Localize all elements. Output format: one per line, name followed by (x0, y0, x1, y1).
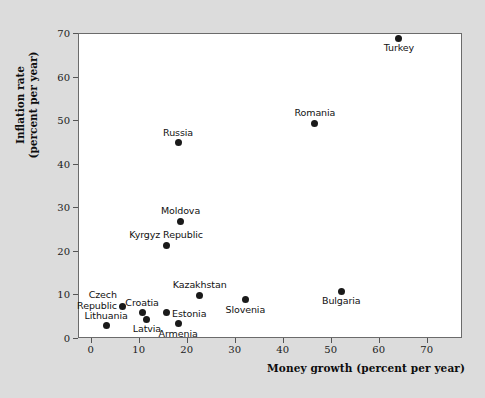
data-point-label: Moldova (161, 206, 200, 217)
x-axis-tick (91, 338, 92, 343)
x-axis-tick-label: 20 (180, 344, 193, 355)
y-axis-tick-label: 20 (57, 245, 70, 256)
x-axis-tick (379, 338, 380, 343)
y-axis-tick (73, 164, 78, 165)
x-axis-tick-label: 10 (132, 344, 145, 355)
x-axis-tick (187, 338, 188, 343)
x-axis-tick-label: 30 (228, 344, 241, 355)
data-point (177, 218, 184, 225)
data-point-label: Croatia (125, 297, 158, 308)
y-axis-tick-label: 30 (57, 202, 70, 213)
x-axis-tick (427, 338, 428, 343)
y-axis-tick-label: 10 (57, 289, 70, 300)
y-axis-tick (73, 120, 78, 121)
data-point (242, 296, 249, 303)
y-axis-tick (73, 33, 78, 34)
x-axis-tick (235, 338, 236, 343)
x-axis-tick (139, 338, 140, 343)
data-point (163, 309, 170, 316)
data-point-label: Turkey (384, 43, 414, 54)
x-axis-title: Money growth (percent per year) (267, 362, 465, 374)
data-point (175, 139, 182, 146)
x-axis-tick (331, 338, 332, 343)
data-point-label: Kyrgyz Republic (129, 230, 203, 241)
data-point-label: Lithuania (85, 310, 128, 321)
scatter-plot-figure: TurkeyRomaniaRussiaMoldovaKyrgyz Republi… (0, 0, 485, 398)
x-axis-tick-label: 40 (276, 344, 289, 355)
y-axis-title-line1: Inflation rate (14, 66, 26, 144)
data-point (311, 120, 318, 127)
x-axis-tick-label: 0 (88, 344, 94, 355)
data-point (103, 322, 110, 329)
data-point-label: Armenia (159, 329, 198, 340)
y-axis-tick (73, 294, 78, 295)
data-point-label: Estonia (172, 309, 206, 320)
data-point-label: Bulgaria (322, 296, 361, 307)
data-point-label: Latvia (133, 324, 161, 335)
y-axis-tick-label: 40 (57, 158, 70, 169)
data-point (175, 320, 182, 327)
y-axis-tick-label: 50 (57, 115, 70, 126)
data-point (163, 242, 170, 249)
data-point-label: Slovenia (225, 305, 265, 316)
data-point (338, 288, 345, 295)
plot-area: TurkeyRomaniaRussiaMoldovaKyrgyz Republi… (79, 34, 461, 337)
data-point-label: Romania (294, 108, 335, 119)
y-axis-tick-label: 0 (64, 333, 70, 344)
x-axis-tick-label: 70 (420, 344, 433, 355)
plot-frame: TurkeyRomaniaRussiaMoldovaKyrgyz Republi… (78, 33, 462, 338)
y-axis-title: Inflation rate (percent per year) (14, 30, 40, 180)
y-axis-tick-label: 60 (57, 71, 70, 82)
y-axis-tick-label: 70 (57, 28, 70, 39)
data-point (196, 292, 203, 299)
y-axis-title-line2: (percent per year) (27, 51, 39, 158)
y-axis-tick (73, 207, 78, 208)
x-axis-tick (283, 338, 284, 343)
x-axis-tick-label: 60 (372, 344, 385, 355)
data-point-label: CzechRepublic (77, 290, 117, 311)
data-point-label: Russia (163, 127, 193, 138)
data-point (143, 316, 150, 323)
data-point-label: Kazakhstan (173, 280, 227, 291)
x-axis-tick-label: 50 (324, 344, 337, 355)
y-axis-tick (73, 251, 78, 252)
y-axis-tick (73, 77, 78, 78)
data-point (395, 35, 402, 42)
y-axis-tick (73, 338, 78, 339)
